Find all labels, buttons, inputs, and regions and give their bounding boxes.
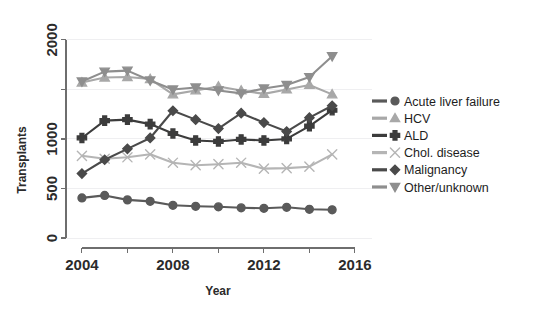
legend-item-label: Malignancy [404, 163, 468, 177]
series-5 [77, 53, 336, 98]
data-point [259, 118, 268, 127]
legend-marker-icon [390, 165, 399, 174]
data-point [192, 202, 200, 210]
legend-item-3[interactable]: Chol. disease [372, 146, 480, 160]
y-tick-label: 500 [43, 176, 60, 201]
legend-marker-icon [390, 114, 399, 122]
data-point [146, 119, 155, 128]
x-tick-label: 2004 [65, 256, 99, 273]
legend-item-4[interactable]: Malignancy [372, 163, 468, 177]
chart-container: 0500100020002004200820122016 Acute liver… [0, 0, 548, 314]
legend-marker-icon [390, 131, 399, 140]
data-point [328, 206, 336, 214]
legend-item-label: Other/unknown [404, 181, 489, 195]
data-point [191, 115, 200, 124]
data-point [283, 203, 291, 211]
legend-item-1[interactable]: HCV [372, 112, 431, 126]
data-point [214, 137, 223, 146]
y-tick-label: 1000 [43, 122, 60, 155]
data-point [123, 144, 132, 153]
legend-marker-icon [390, 148, 399, 157]
legend-item-label: HCV [404, 112, 431, 126]
tick-labels: 0500100020002004200820122016 [43, 23, 372, 273]
data-point [124, 196, 132, 204]
data-point [259, 136, 268, 145]
legend-item-5[interactable]: Other/unknown [372, 181, 489, 195]
data-point [237, 204, 245, 212]
x-tick-label: 2016 [338, 256, 371, 273]
data-point [78, 194, 86, 202]
data-point [100, 155, 109, 164]
legend-item-label: Chol. disease [404, 146, 480, 160]
x-axis-title: Year [205, 284, 231, 298]
data-point [101, 191, 109, 199]
data-point [215, 203, 223, 211]
data-point [305, 205, 313, 213]
line-chart: 0500100020002004200820122016 Acute liver… [0, 0, 548, 314]
legend-marker-icon [391, 97, 399, 105]
legend-item-2[interactable]: ALD [372, 129, 428, 143]
chart-legend: Acute liver failureHCVALDChol. diseaseMa… [372, 95, 500, 195]
data-point [328, 150, 337, 159]
series-line [82, 195, 332, 209]
data-point [123, 115, 132, 124]
y-tick-label: 0 [43, 234, 60, 242]
series-line [82, 106, 332, 174]
series-1 [77, 72, 336, 97]
data-point [237, 135, 246, 144]
legend-item-0[interactable]: Acute liver failure [372, 95, 500, 109]
data-point [191, 136, 200, 145]
y-axis-title: Transplants [15, 126, 29, 194]
series-line [82, 154, 332, 168]
data-point [168, 129, 177, 138]
y-tick-label: 2000 [43, 23, 60, 56]
series-line [82, 77, 332, 94]
series-group [77, 53, 336, 214]
data-point [146, 197, 154, 205]
x-tick-label: 2008 [156, 256, 189, 273]
legend-item-label: ALD [404, 129, 428, 143]
data-point [77, 169, 86, 178]
legend-item-label: Acute liver failure [404, 95, 500, 109]
series-0 [78, 191, 336, 213]
data-point [305, 113, 314, 122]
x-tick-label: 2012 [247, 256, 280, 273]
data-point [260, 204, 268, 212]
data-point [282, 127, 291, 136]
legend-marker-icon [390, 184, 399, 192]
data-point [169, 201, 177, 209]
